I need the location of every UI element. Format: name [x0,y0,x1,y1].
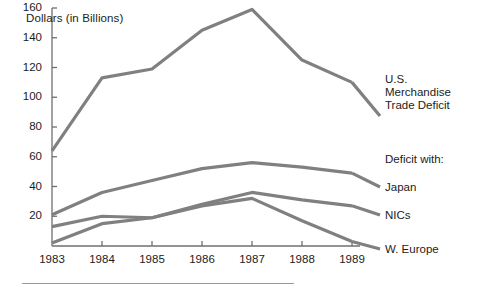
series-leader-line [352,206,380,215]
y-tick-label: 160 [14,2,42,14]
series-leader-line [352,82,380,116]
y-tick-label: 20 [14,210,42,222]
y-tick-label: 120 [14,62,42,74]
trade-deficit-line-chart: Dollars (in Billions) 204060801001201401… [0,0,478,294]
chart-leader-lines [352,82,380,249]
series-label-nics: NICs [385,209,411,222]
x-tick-label: 1986 [179,254,225,266]
y-tick-label: 80 [14,121,42,133]
x-tick-label: 1983 [29,254,75,266]
footer-divider [22,283,294,284]
x-tick-label: 1987 [229,254,275,266]
series-leader-line [352,242,380,249]
y-tick-label: 60 [14,151,42,163]
x-tick-label: 1985 [129,254,175,266]
chart-axes [52,8,360,246]
series-line [52,9,352,150]
y-axis-title: Dollars (in Billions) [26,12,123,24]
series-label-us-merchandise-trade-deficit: U.S. Merchandise Trade Deficit [385,73,451,113]
x-tick-label: 1989 [329,254,375,266]
series-label-w-europe: W. Europe [385,243,439,256]
deficit-with-heading: Deficit with: [385,153,444,166]
y-tick-label: 100 [14,91,42,103]
y-tick-label: 40 [14,181,42,193]
series-label-japan: Japan [385,181,416,194]
y-tick-label: 140 [14,32,42,44]
x-tick-label: 1984 [79,254,125,266]
chart-series-lines [52,9,352,243]
series-leader-line [352,173,380,187]
x-tick-label: 1988 [279,254,325,266]
series-line [52,198,352,243]
